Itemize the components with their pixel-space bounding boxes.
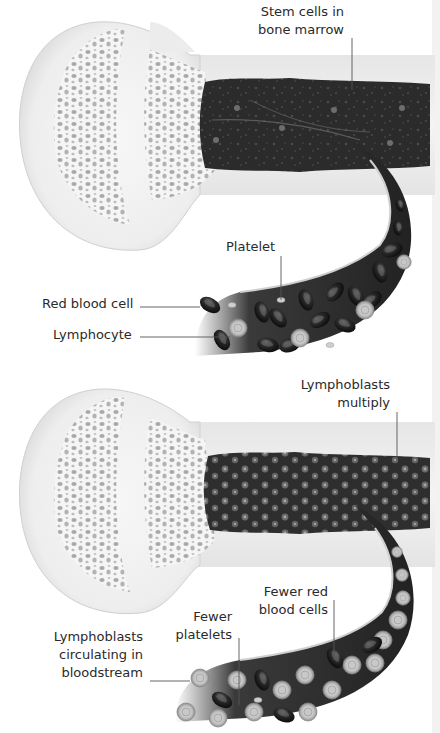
label-lymphoblasts-multiply: Lymphoblasts multiply <box>301 376 390 412</box>
label-red-blood-cell: Red blood cell <box>42 295 133 313</box>
bone-marrow-lymphoblasts <box>204 452 430 534</box>
label-fewer-platelets: Fewer platelets <box>176 608 232 644</box>
label-fewer-red-blood-cells: Fewer red blood cells <box>259 583 328 619</box>
label-lymphocyte: Lymphocyte <box>53 326 132 344</box>
label-platelet: Platelet <box>226 238 275 256</box>
label-stem-cells: Stem cells in bone marrow <box>258 3 344 39</box>
label-lymphoblasts-circulating: Lymphoblasts circulating in bloodstream <box>54 628 143 682</box>
